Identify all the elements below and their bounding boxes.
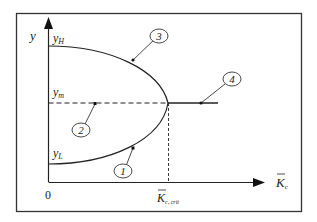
y-axis-arrow-icon [44,17,53,29]
x-axis-label: Kc [275,175,289,191]
callout-3-dot [131,58,134,61]
callout-1-label: 1 [120,165,126,177]
curve-3-upper-branch [49,46,169,103]
callout-1-dot [132,147,135,150]
curve-1-lower-branch [49,103,169,164]
callout-2-dot [94,102,97,105]
callout-4-label: 4 [229,73,235,85]
callout-2-leader [85,104,95,124]
callout-3-label: 3 [155,30,162,42]
y-l-label: yL [52,146,63,161]
y-m-label: ym [52,85,64,100]
y-h-label: yH [52,31,65,46]
callout-2-label: 2 [78,124,84,136]
y-axis-label: y [28,28,36,43]
x-crit-label: Kc, crit [156,191,179,205]
callout-1-leader [126,148,133,166]
callout-4-dot [199,101,202,104]
callout-4-leader [201,84,225,103]
origin-label: 0 [45,188,51,202]
diagram-canvas: 3 4 2 1 y yH ym yL 0 Kc Kc, crit [0,0,317,222]
x-axis-arrow-icon [253,178,265,187]
